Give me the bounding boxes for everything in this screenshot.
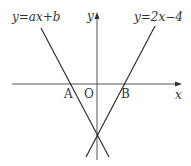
label-line-2x-4: y=2x−4: [133, 10, 183, 24]
x-axis-arrow-icon: [175, 82, 182, 87]
graph-diagram: y=ax+b y=2x−4 y x A O B: [0, 0, 191, 166]
line-ax-b: [41, 28, 109, 157]
point-a-label: A: [63, 87, 73, 101]
origin-label: O: [84, 87, 94, 101]
label-line-ax-b: y=ax+b: [11, 10, 61, 24]
x-axis-label: x: [175, 88, 182, 102]
y-axis-label: y: [86, 9, 94, 23]
y-axis-arrow-icon: [95, 12, 100, 19]
point-b-label: B: [121, 87, 130, 101]
